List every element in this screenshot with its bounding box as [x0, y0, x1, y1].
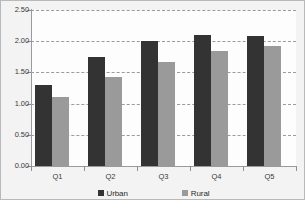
x-axis-tick-mark [190, 166, 191, 171]
legend-label: Rural [191, 189, 210, 198]
y-axis-tick-label: 1.50 [3, 68, 29, 76]
x-axis-tick-mark [31, 166, 32, 171]
bar-urban-q3[interactable] [141, 41, 158, 166]
bar-group [194, 10, 228, 166]
bar-urban-q4[interactable] [194, 35, 211, 166]
bar-rural-q4[interactable] [211, 51, 228, 166]
bar-group [88, 10, 122, 166]
bar-chart-figure: 0.000.501.001.502.002.50 Q1Q2Q3Q4Q5 Urba… [0, 0, 305, 200]
plot-area [31, 10, 296, 166]
x-axis-tick-label-q3: Q3 [137, 172, 190, 181]
bar-urban-q2[interactable] [88, 57, 105, 166]
legend-label: Urban [107, 189, 128, 198]
y-axis-tick-label: 0.50 [3, 131, 29, 139]
y-axis-tick-label: 2.00 [3, 37, 29, 45]
bar-urban-q1[interactable] [35, 85, 52, 166]
y-axis-tick-label: 2.50 [3, 6, 29, 14]
x-axis-tick-mark [296, 166, 297, 171]
bar-group [35, 10, 69, 166]
dark-square-swatch [98, 190, 104, 196]
x-axis-tick-mark [243, 166, 244, 171]
chart-legend: UrbanRural [1, 187, 305, 199]
x-axis-tick-label-q2: Q2 [84, 172, 137, 181]
bar-urban-q5[interactable] [247, 36, 264, 166]
bar-rural-q1[interactable] [52, 97, 69, 166]
y-axis-tick-label: 0.00 [3, 162, 29, 170]
bar-rural-q3[interactable] [158, 62, 175, 166]
x-axis-tick-label-q5: Q5 [243, 172, 296, 181]
bar-group [141, 10, 175, 166]
bar-rural-q2[interactable] [105, 77, 122, 166]
x-axis-tick-mark [137, 166, 138, 171]
legend-item-rural[interactable]: Rural [182, 189, 210, 198]
x-axis-tick-label-q1: Q1 [31, 172, 84, 181]
legend-item-urban[interactable]: Urban [98, 189, 128, 198]
x-axis-line [31, 166, 297, 167]
bar-group [247, 10, 281, 166]
x-axis-tick-mark [84, 166, 85, 171]
y-axis-labels: 0.000.501.001.502.002.50 [1, 1, 29, 200]
y-axis-tick-label: 1.00 [3, 100, 29, 108]
x-axis-tick-label-q4: Q4 [190, 172, 243, 181]
gray-square-swatch [182, 190, 188, 196]
bar-rural-q5[interactable] [264, 46, 281, 166]
x-axis-labels: Q1Q2Q3Q4Q5 [31, 172, 297, 184]
